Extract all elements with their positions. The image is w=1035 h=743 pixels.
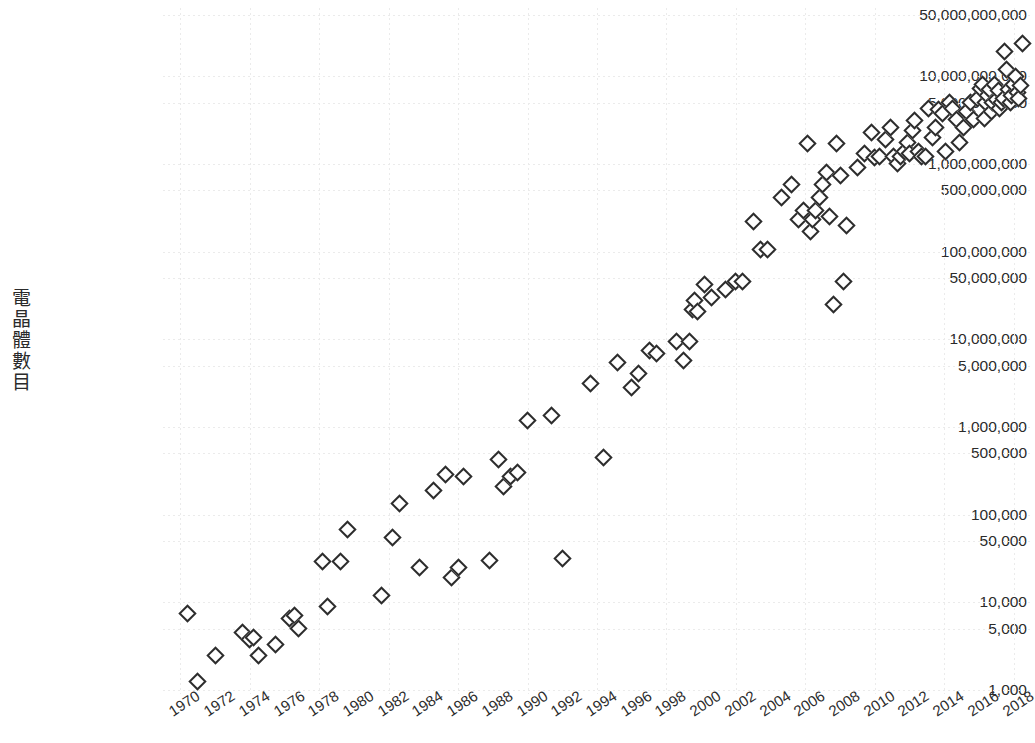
data-point (489, 450, 507, 468)
data-point (314, 553, 332, 571)
data-point (373, 586, 391, 604)
data-point (824, 295, 842, 313)
data-point (834, 273, 852, 291)
data-point (827, 134, 845, 152)
data-point (543, 406, 561, 424)
data-point (249, 646, 267, 664)
data-point (744, 212, 762, 230)
data-point (178, 604, 196, 622)
data-point (1013, 34, 1031, 52)
data-point (338, 520, 356, 538)
data-point (206, 646, 224, 664)
data-point (411, 558, 429, 576)
data-point (838, 216, 856, 234)
data-point (267, 635, 285, 653)
data-point (609, 353, 627, 371)
data-point (675, 351, 693, 369)
data-point (454, 467, 472, 485)
data-point (425, 481, 443, 499)
data-point (553, 549, 571, 567)
data-point (595, 448, 613, 466)
data-point (951, 133, 969, 151)
data-point (581, 375, 599, 393)
data-point (480, 551, 498, 569)
data-points (163, 8, 1031, 694)
data-point (390, 494, 408, 512)
data-point (437, 465, 455, 483)
data-point (996, 42, 1014, 60)
data-point (680, 332, 698, 350)
data-point (331, 553, 349, 571)
data-point (772, 189, 790, 207)
y-axis-title: 電 晶 體 數 目 (8, 288, 34, 393)
data-point (518, 411, 536, 429)
data-point (383, 528, 401, 546)
data-point (831, 167, 849, 185)
data-point (319, 597, 337, 615)
plot-area (163, 8, 1031, 694)
data-point (798, 134, 816, 152)
transistor-count-chart: 電 晶 體 數 目 50,000,000,00010,000,000,0005,… (0, 0, 1035, 743)
